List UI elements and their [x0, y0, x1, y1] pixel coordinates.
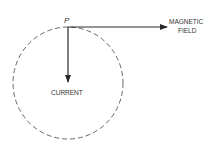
magnetic-field-label-line1: MAGNETIC: [169, 18, 204, 25]
point-p-label: P: [64, 16, 70, 25]
current-label: CURRENT: [51, 89, 83, 96]
diagram-canvas: P MAGNETIC FIELD CURRENT: [0, 0, 219, 148]
magnetic-field-label-line2: FIELD: [178, 27, 197, 34]
